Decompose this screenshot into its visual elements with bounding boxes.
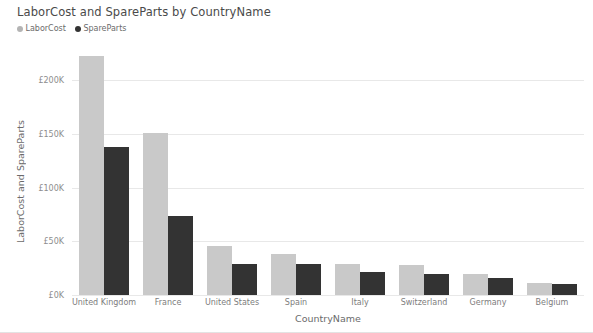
bar-laborcost-france[interactable] <box>143 133 168 295</box>
x-tick-label: Belgium <box>536 298 569 307</box>
bar-spareparts-united-states[interactable] <box>232 264 257 295</box>
x-tick-label: Germany <box>470 298 507 307</box>
circle-marker-icon <box>17 26 23 32</box>
y-tick-label: £50K <box>20 237 64 246</box>
y-tick-label: £0K <box>20 291 64 300</box>
bar-spareparts-united-kingdom[interactable] <box>104 147 129 295</box>
bar-laborcost-italy[interactable] <box>335 264 360 295</box>
bar-group <box>271 46 321 295</box>
x-axis-title: CountryName <box>72 313 584 324</box>
bar-spareparts-france[interactable] <box>168 216 193 295</box>
bar-group <box>79 46 129 295</box>
chart-legend: LaborCost SpareParts <box>17 24 126 33</box>
bars-layer <box>72 46 584 295</box>
legend-item-laborcost[interactable]: LaborCost <box>17 24 66 33</box>
x-tick-label: United Kingdom <box>72 298 136 307</box>
bar-spareparts-germany[interactable] <box>488 278 513 295</box>
y-tick-label: £200K <box>20 76 64 85</box>
bar-laborcost-belgium[interactable] <box>527 283 552 295</box>
x-tick-label: Switzerland <box>401 298 448 307</box>
legend-label-laborcost: LaborCost <box>26 24 66 33</box>
bar-group <box>399 46 449 295</box>
bar-group <box>143 46 193 295</box>
bar-laborcost-switzerland[interactable] <box>399 265 424 295</box>
plot-area: £0K£50K£100K£150K£200K <box>72 46 584 295</box>
bar-spareparts-switzerland[interactable] <box>424 274 449 295</box>
bar-spareparts-italy[interactable] <box>360 272 385 295</box>
x-tick-label: France <box>155 298 182 307</box>
x-tick-label: United States <box>205 298 259 307</box>
bar-laborcost-spain[interactable] <box>271 254 296 295</box>
bar-group <box>463 46 513 295</box>
bar-laborcost-united-states[interactable] <box>207 246 232 295</box>
x-tick-label: Italy <box>351 298 368 307</box>
legend-label-spareparts: SpareParts <box>83 24 126 33</box>
x-axis-ticks: United KingdomFranceUnited StatesSpainIt… <box>72 298 584 312</box>
bar-laborcost-united-kingdom[interactable] <box>79 56 104 295</box>
y-tick-label: £100K <box>20 183 64 192</box>
circle-marker-icon <box>75 26 81 32</box>
bar-chart-container: LaborCost and SpareParts by CountryName … <box>0 0 593 333</box>
y-tick-label: £150K <box>20 130 64 139</box>
chart-title: LaborCost and SpareParts by CountryName <box>17 5 271 19</box>
legend-item-spareparts[interactable]: SpareParts <box>75 24 127 33</box>
gridline <box>72 295 584 296</box>
bar-group <box>207 46 257 295</box>
bar-laborcost-germany[interactable] <box>463 274 488 295</box>
bar-spareparts-spain[interactable] <box>296 264 321 295</box>
bar-spareparts-belgium[interactable] <box>552 284 577 295</box>
bar-group <box>527 46 577 295</box>
bar-group <box>335 46 385 295</box>
x-tick-label: Spain <box>285 298 307 307</box>
